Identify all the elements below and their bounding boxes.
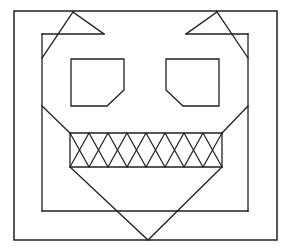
artboard [0,0,289,249]
face-drawing-svg [0,0,289,249]
